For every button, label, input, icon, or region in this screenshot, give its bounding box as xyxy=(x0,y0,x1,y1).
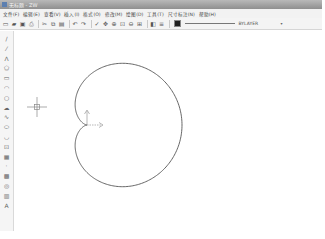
polygon-icon[interactable]: ⬠ xyxy=(3,64,11,72)
color-swatch[interactable] xyxy=(174,20,181,27)
toolbar-separator xyxy=(147,20,148,28)
menu-dimension[interactable]: 尺寸标注(N) xyxy=(168,11,195,17)
menu-file[interactable]: 文件(F) xyxy=(3,11,19,17)
caption-area xyxy=(0,232,325,239)
layer-states-icon[interactable]: ≡ xyxy=(158,20,165,27)
drawing-svg xyxy=(15,31,322,231)
open-file-icon[interactable]: ▰ xyxy=(11,20,18,27)
zoom-realtime-icon[interactable]: ⊕ xyxy=(111,20,118,27)
linetype-dropdown[interactable]: BYLAYER xyxy=(239,21,279,26)
title-bar: 无标题 - ZW xyxy=(0,0,322,9)
crosshair-cursor-icon xyxy=(27,97,47,117)
save-icon[interactable]: ▣ xyxy=(19,20,26,27)
menu-view[interactable]: 查看(V) xyxy=(44,11,61,17)
point-icon[interactable]: · xyxy=(3,162,11,170)
zoom-window-icon[interactable]: ⊡ xyxy=(119,20,126,27)
zoom-previous-icon[interactable]: ⊖ xyxy=(128,20,135,27)
standard-toolbar: ▭ ▰ ▣ ⎙ ✂ ⧉ ▤ ↶ ↷ ✓ ✥ ⊕ ⊡ ⊖ ⊞ ◧ ≡ BYLAYE… xyxy=(0,18,322,30)
chevron-down-icon[interactable]: ▾ xyxy=(281,21,283,26)
copy-icon[interactable]: ⧉ xyxy=(50,20,57,27)
toolbar-separator xyxy=(169,20,170,28)
draw-toolbar: / ⁄ ᐱ ⬠ ▭ ◠ ○ ☁ ∿ ⬭ ◡ ⊡ ▦ · ▩ ◎ ▥ A xyxy=(0,31,14,231)
make-block-icon[interactable]: ▦ xyxy=(3,153,11,161)
region-icon[interactable]: ◎ xyxy=(3,182,11,190)
spline-icon[interactable]: ∿ xyxy=(3,113,11,121)
toolbar-separator xyxy=(69,20,70,28)
linetype-control[interactable]: BYLAYER ▾ xyxy=(174,20,283,27)
cardioid-curve[interactable] xyxy=(75,63,182,186)
menu-insert[interactable]: 插入(I) xyxy=(64,11,79,17)
table-icon[interactable]: ▥ xyxy=(3,192,11,200)
rectangle-icon[interactable]: ▭ xyxy=(3,74,11,82)
redo-icon[interactable]: ↷ xyxy=(80,20,87,27)
insert-block-icon[interactable]: ⊡ xyxy=(3,143,11,151)
menu-help[interactable]: 帮助(H) xyxy=(199,11,216,17)
circle-icon[interactable]: ○ xyxy=(3,94,11,102)
cut-icon[interactable]: ✂ xyxy=(41,20,48,27)
window-title: 无标题 - ZW xyxy=(9,1,37,8)
revcloud-icon[interactable]: ☁ xyxy=(3,104,11,112)
ellipse-icon[interactable]: ⬭ xyxy=(3,123,11,131)
construction-line-icon[interactable]: ⁄ xyxy=(3,45,11,53)
undo-icon[interactable]: ↶ xyxy=(72,20,79,27)
ucs-icon xyxy=(85,110,104,128)
linetype-sample xyxy=(185,23,235,24)
pan-icon[interactable]: ✥ xyxy=(102,20,109,27)
app-icon xyxy=(2,2,7,7)
arc-icon[interactable]: ◠ xyxy=(3,84,11,92)
line-icon[interactable]: / xyxy=(3,35,11,43)
zoom-extents-icon[interactable]: ⊞ xyxy=(136,20,143,27)
toolbar-separator xyxy=(38,20,39,28)
menu-edit[interactable]: 编辑(E) xyxy=(23,11,40,17)
menu-draw[interactable]: 绘图(D) xyxy=(126,11,143,17)
hatch-icon[interactable]: ▩ xyxy=(3,172,11,180)
mtext-icon[interactable]: A xyxy=(3,202,11,210)
paste-icon[interactable]: ▤ xyxy=(58,20,65,27)
layers-icon[interactable]: ◧ xyxy=(150,20,157,27)
menu-bar: 文件(F) 编辑(E) 查看(V) 插入(I) 格式(O) 修改(M) 绘图(D… xyxy=(0,9,322,18)
print-icon[interactable]: ⎙ xyxy=(28,20,35,27)
match-properties-icon[interactable]: ✓ xyxy=(94,20,101,27)
menu-modify[interactable]: 修改(M) xyxy=(105,11,123,17)
menu-tools[interactable]: 工具(T) xyxy=(147,11,163,17)
polyline-icon[interactable]: ᐱ xyxy=(3,55,11,63)
new-file-icon[interactable]: ▭ xyxy=(2,20,9,27)
ellipse-arc-icon[interactable]: ◡ xyxy=(3,133,11,141)
menu-format[interactable]: 格式(O) xyxy=(83,11,100,17)
toolbar-separator xyxy=(91,20,92,28)
drawing-canvas[interactable] xyxy=(15,31,322,231)
cad-window: 无标题 - ZW 文件(F) 编辑(E) 查看(V) 插入(I) 格式(O) 修… xyxy=(0,0,322,232)
